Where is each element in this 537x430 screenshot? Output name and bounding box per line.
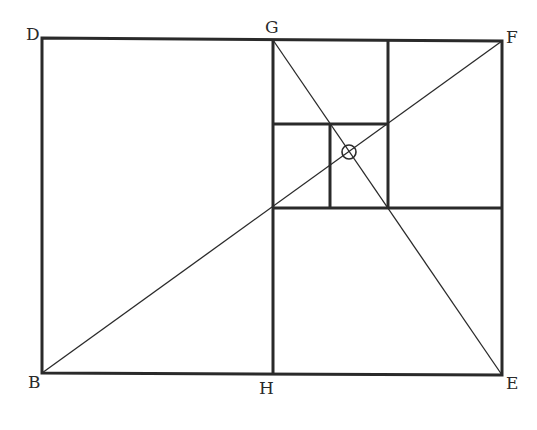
label-B: B [28,372,41,392]
label-E: E [506,373,518,393]
golden-rectangle-diagram: D G F B H E [0,0,537,430]
label-D: D [26,24,40,44]
label-H: H [259,378,274,398]
label-F: F [506,27,518,47]
label-G: G [265,17,279,37]
